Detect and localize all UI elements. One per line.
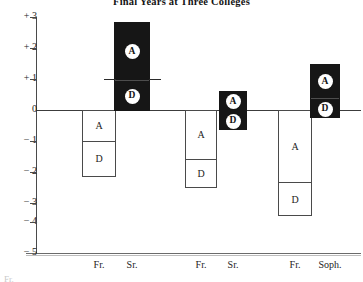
y-tick-minus-1: − 1 bbox=[0, 141, 37, 142]
y-tick-minus-5: − 5 bbox=[0, 253, 37, 254]
y-tick-mark-1 bbox=[30, 79, 37, 80]
y-tick-mark-minus-1 bbox=[30, 141, 37, 142]
bar-segment-d: D bbox=[311, 99, 339, 119]
y-tick-mark-3 bbox=[30, 17, 37, 18]
chart-figure: Final Years at Three Colleges + 3 + 2 + … bbox=[0, 0, 363, 282]
segment-label-a: A bbox=[318, 74, 333, 89]
bar-group2-sr[interactable]: A D bbox=[219, 91, 247, 130]
y-tick-mark-minus-3 bbox=[30, 203, 37, 204]
y-tick-minus-4: − 4 bbox=[0, 222, 37, 223]
y-tick-label-0: 0 bbox=[9, 103, 37, 114]
x-axis-rule-shadow bbox=[26, 255, 361, 256]
y-tick-mark-minus-2 bbox=[30, 172, 37, 173]
segment-label-d: D bbox=[318, 102, 333, 117]
y-tick-label-3: + 3 bbox=[9, 10, 37, 21]
bar-segment-d: D bbox=[220, 111, 246, 131]
bar-segment-a: A bbox=[115, 23, 149, 80]
y-tick-1: + 1 bbox=[0, 79, 37, 80]
y-tick-2: + 2 bbox=[0, 48, 37, 49]
bar-segment-d: D bbox=[186, 160, 216, 187]
y-tick-minus-3: − 3 bbox=[0, 203, 37, 204]
bar-segment-a: A bbox=[311, 65, 339, 98]
segment-label-d: D bbox=[125, 89, 140, 104]
y-tick-mark-2 bbox=[30, 48, 37, 49]
y-tick-label-2: + 2 bbox=[9, 41, 37, 52]
bar-segment-a: A bbox=[83, 111, 115, 141]
bar-segment-a: A bbox=[279, 111, 311, 182]
x-label-group2-sr: Sr. bbox=[228, 259, 239, 270]
y-tick-label-minus-1: − 1 bbox=[9, 134, 37, 145]
plot-area: + 3 + 2 + 1 0 − 1 − 2 − 3 − 4 bbox=[0, 0, 363, 282]
segment-label-a: A bbox=[197, 130, 204, 140]
segment-label-d: D bbox=[226, 114, 241, 129]
bar-group1-fr[interactable]: A D bbox=[82, 110, 116, 177]
x-label-group3-fr: Fr. bbox=[290, 259, 301, 270]
y-tick-label-1: + 1 bbox=[9, 72, 37, 83]
y-tick-mark-minus-4 bbox=[30, 222, 37, 223]
bar-group3-fr[interactable]: A D bbox=[278, 110, 312, 216]
y-tick-3: + 3 bbox=[0, 17, 37, 18]
y-tick-minus-2: − 2 bbox=[0, 172, 37, 173]
segment-label-d: D bbox=[95, 154, 102, 164]
plus-one-tick-left bbox=[104, 79, 116, 80]
footnote-cutoff: Fr. bbox=[4, 274, 14, 282]
segment-label-a: A bbox=[125, 44, 140, 59]
y-tick-label-minus-3: − 3 bbox=[9, 196, 37, 207]
x-label-group1-fr: Fr. bbox=[94, 259, 105, 270]
bar-group2-fr[interactable]: A D bbox=[185, 110, 217, 188]
bar-group3-soph[interactable]: A D bbox=[310, 64, 340, 118]
x-label-group1-sr: Sr. bbox=[127, 259, 138, 270]
bar-segment-a: A bbox=[186, 111, 216, 159]
segment-label-d: D bbox=[291, 195, 298, 205]
segment-label-a: A bbox=[226, 94, 241, 109]
y-tick-label-minus-2: − 2 bbox=[9, 165, 37, 176]
plus-one-tick-right bbox=[149, 79, 161, 80]
y-tick-label-minus-5: − 5 bbox=[9, 246, 37, 257]
x-axis-rule bbox=[26, 253, 361, 254]
segment-label-d: D bbox=[197, 169, 204, 179]
x-label-group3-soph: Soph. bbox=[318, 259, 341, 270]
y-tick-0: 0 bbox=[0, 110, 37, 111]
bar-group1-sr[interactable]: A D bbox=[114, 22, 150, 111]
bar-segment-d: D bbox=[279, 183, 311, 216]
segment-label-a: A bbox=[291, 142, 298, 152]
bar-segment-d: D bbox=[115, 81, 149, 111]
bar-segment-a: A bbox=[220, 92, 246, 111]
bar-segment-d: D bbox=[83, 142, 115, 176]
y-tick-label-minus-4: − 4 bbox=[9, 215, 37, 226]
x-label-group2-fr: Fr. bbox=[196, 259, 207, 270]
segment-label-a: A bbox=[95, 121, 102, 131]
